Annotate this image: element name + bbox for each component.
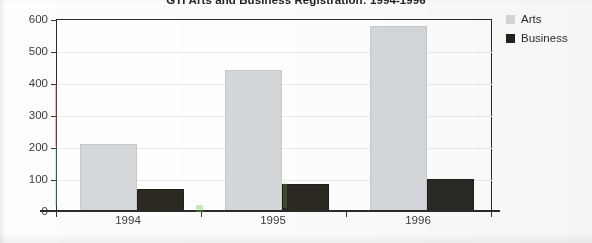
legend-label-arts: Arts <box>521 14 541 26</box>
y-tick-label: 600 <box>29 13 48 25</box>
legend-item-business[interactable]: Business <box>506 33 568 45</box>
legend-swatch-icon-business <box>506 34 515 43</box>
y-tick-label: 200 <box>29 141 48 153</box>
y-tick-label: 400 <box>29 77 48 89</box>
x-tick-label-1994: 1994 <box>115 214 141 226</box>
bar-business-1994[interactable] <box>137 189 184 211</box>
chart-legend: Arts Business <box>506 14 568 44</box>
bar-group-1996 <box>346 19 491 211</box>
bar-business-1995[interactable] <box>282 184 329 211</box>
bar-group-1995 <box>201 19 346 211</box>
y-tick-label: 500 <box>29 45 48 57</box>
bar-series-container <box>56 19 492 211</box>
bar-arts-1995[interactable] <box>225 70 282 211</box>
bar-arts-1996[interactable] <box>370 26 427 211</box>
bar-chart: GTI Arts and Business Registration: 1994… <box>0 0 592 243</box>
y-tick-label: 100 <box>29 173 48 185</box>
bar-business-1996[interactable] <box>427 179 474 211</box>
legend-swatch-icon-arts <box>506 15 515 24</box>
legend-label-business: Business <box>521 33 568 45</box>
chart-title: GTI Arts and Business Registration: 1994… <box>0 0 592 8</box>
legend-item-arts[interactable]: Arts <box>506 14 568 26</box>
bar-arts-1994[interactable] <box>80 144 137 211</box>
x-tick-label-1995: 1995 <box>260 214 286 226</box>
x-axis-labels: 1994 1995 1996 <box>56 214 492 234</box>
y-tick-label: 300 <box>29 109 48 121</box>
y-axis-labels: 600 500 400 300 200 100 0 <box>14 0 48 243</box>
x-tick-label-1996: 1996 <box>405 214 431 226</box>
bar-group-1994 <box>56 19 201 211</box>
x-axis-line <box>40 210 500 212</box>
